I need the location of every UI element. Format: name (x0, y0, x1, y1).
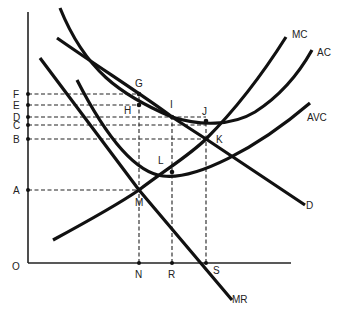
avc-curve (77, 80, 310, 176)
cost-revenue-diagram: O F E D C B A N R S G H I J K L M MC AC … (0, 0, 345, 312)
point-L (170, 170, 175, 175)
tick-N (137, 261, 141, 265)
label-J: J (202, 106, 207, 117)
point-J (204, 119, 209, 124)
label-I: I (170, 99, 173, 110)
label-S: S (213, 265, 220, 276)
label-E: E (13, 100, 20, 111)
label-C: C (13, 120, 20, 131)
label-AVC: AVC (307, 112, 327, 123)
curves (40, 8, 312, 300)
point-G (137, 92, 142, 97)
tick-C (26, 123, 30, 127)
point-K (204, 137, 209, 142)
label-R: R (168, 269, 175, 280)
label-G: G (135, 78, 143, 89)
tick-R (170, 261, 174, 265)
point-I (170, 115, 175, 120)
vertical-guides (139, 94, 206, 263)
label-B: B (13, 134, 20, 145)
label-F: F (13, 89, 19, 100)
label-K: K (216, 134, 223, 145)
label-M: M (135, 197, 143, 208)
label-O: O (12, 261, 20, 272)
tick-E (26, 103, 30, 107)
point-M (137, 188, 142, 193)
tick-D (26, 115, 30, 119)
tick-B (26, 137, 30, 141)
label-MC: MC (292, 29, 308, 40)
label-AC: AC (317, 47, 331, 58)
label-A: A (13, 185, 20, 196)
label-L: L (158, 155, 164, 166)
label-N: N (135, 269, 142, 280)
tick-S (204, 261, 208, 265)
label-H: H (124, 105, 131, 116)
axes (28, 12, 291, 263)
tick-A (26, 188, 30, 192)
tick-F (26, 92, 30, 96)
label-MR: MR (232, 294, 248, 305)
label-D-curve: D (306, 200, 313, 211)
point-H (137, 103, 142, 108)
